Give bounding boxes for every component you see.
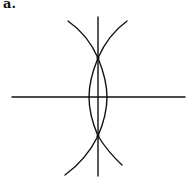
arc-upper-right: [89, 21, 127, 136]
arc-lower-right: [98, 136, 122, 165]
arc-lower-left: [65, 136, 98, 175]
arc-upper-left: [68, 21, 107, 136]
lower-intersection-point: [96, 134, 99, 137]
upper-intersection-point: [96, 56, 99, 59]
construction-diagram: [0, 0, 189, 182]
